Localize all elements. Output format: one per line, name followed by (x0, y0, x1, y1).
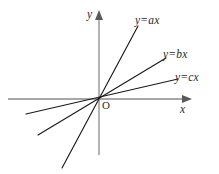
y-axis (95, 10, 103, 155)
coordinate-plane-svg (0, 0, 219, 174)
label-line-a: y=ax (135, 15, 160, 27)
y-axis-label: y (87, 9, 92, 21)
line-y-equals-bx (38, 58, 166, 135)
line-y-equals-ax (62, 26, 138, 168)
y-axis-arrowhead (95, 10, 103, 20)
x-axis-label: x (180, 104, 185, 116)
label-line-c: y=cx (175, 72, 199, 84)
figure-container: y x O y=ax y=bx y=cx (0, 0, 219, 174)
label-line-b: y=bx (163, 49, 188, 61)
origin-label: O (102, 100, 110, 111)
x-axis-arrowhead (182, 95, 192, 103)
